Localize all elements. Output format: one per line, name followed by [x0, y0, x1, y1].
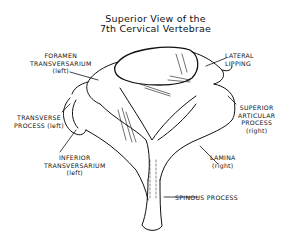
label-superior-articular-process: SUPERIOR ARTICULAR PROCESS (right) [238, 104, 275, 134]
label-inferior-transversarium: INFERIOR TRANSVERSARIUM (left) [44, 154, 106, 177]
label-spinous-process: SPINOUS PROCESS [175, 194, 238, 202]
label-lateral-lipping: LATERAL LIPPING [225, 52, 254, 67]
label-transverse-process: TRANSVERSE PROCESS (left) [14, 114, 64, 129]
label-lamina: LAMINA (right) [210, 154, 236, 169]
label-foramen-transversarium: FORAMEN TRANSVERSARIUM (left) [30, 52, 92, 75]
